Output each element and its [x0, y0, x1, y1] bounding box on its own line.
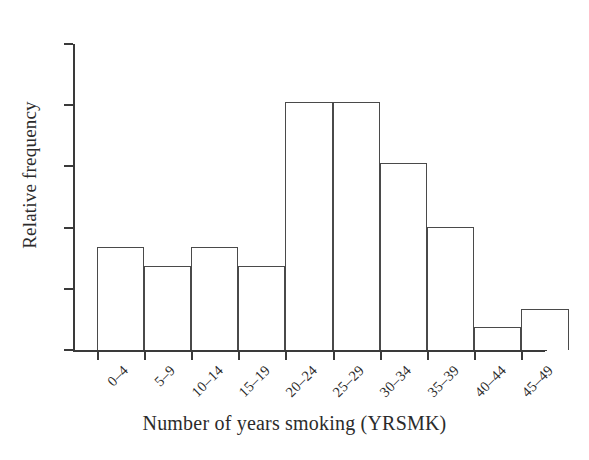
x-axis-tick-label: 35–39: [424, 362, 463, 401]
histogram-bar: [380, 163, 427, 350]
histogram-bar: [333, 102, 380, 350]
x-axis-major-tick: [73, 342, 75, 351]
y-axis-tick: [64, 104, 73, 106]
x-axis-minor-tick: [333, 352, 335, 360]
x-axis-minor-tick: [144, 352, 146, 360]
x-axis-tick-label: 45–49: [518, 362, 557, 401]
x-axis-tick-label: 40–44: [471, 362, 510, 401]
histogram-bar: [285, 102, 332, 350]
x-axis-minor-tick: [191, 352, 193, 360]
x-axis-minor-tick: [427, 352, 429, 360]
histogram-bar: [474, 327, 521, 350]
x-axis-tick-label: 25–29: [329, 362, 368, 401]
x-axis-tick-label: 5–9: [151, 362, 179, 390]
x-axis-minor-tick: [521, 352, 523, 360]
y-axis-title-container: Relative frequency: [0, 0, 60, 350]
histogram-bar: [97, 247, 144, 350]
y-axis-tick: [64, 43, 73, 45]
y-axis-tick: [64, 288, 73, 290]
y-axis-tick: [64, 227, 73, 229]
x-axis-minor-tick: [474, 352, 476, 360]
y-axis-tick: [64, 349, 73, 351]
histogram-bar: [238, 266, 285, 350]
x-axis-tick-label: 20–24: [282, 362, 321, 401]
x-axis-minor-tick: [285, 352, 287, 360]
histogram-bar: [427, 227, 474, 350]
x-axis-minor-tick: [380, 352, 382, 360]
y-axis-spine: [73, 44, 75, 350]
x-axis-minor-tick: [238, 352, 240, 360]
histogram-figure: Relative frequency 0–45–910–1415–1920–24…: [0, 0, 589, 460]
x-axis-tick-label: 10–14: [188, 362, 227, 401]
y-axis-tick: [64, 165, 73, 167]
x-axis-tick-label: 15–19: [235, 362, 274, 401]
plot-area: [73, 44, 545, 350]
x-axis-minor-tick: [97, 352, 99, 360]
histogram-bar: [144, 266, 191, 350]
x-axis-tick-label: 0–4: [104, 362, 132, 390]
histogram-bar: [191, 247, 238, 350]
x-axis-tick-label: 30–34: [377, 362, 416, 401]
y-axis-title: Relative frequency: [19, 101, 41, 249]
x-axis-title: Number of years smoking (YRSMK): [0, 412, 589, 435]
histogram-bar: [521, 309, 568, 350]
